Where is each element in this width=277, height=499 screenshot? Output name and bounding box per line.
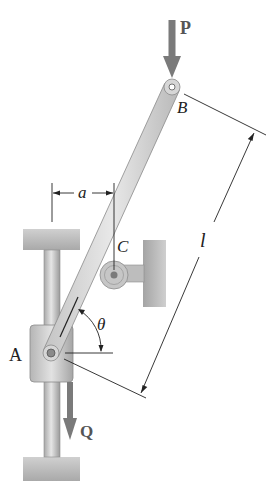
bottom-support-block <box>23 457 80 481</box>
force-q-arrow <box>63 382 77 440</box>
bar-ab <box>43 79 180 361</box>
label-theta: θ <box>97 315 105 334</box>
roller-c-axle <box>111 272 118 279</box>
force-p-arrow <box>163 20 181 78</box>
label-q: Q <box>80 422 93 441</box>
top-support-block <box>23 229 80 250</box>
label-p: P <box>180 18 191 38</box>
pin-b <box>169 84 175 90</box>
mechanism-diagram: a l θ P Q B C A <box>0 0 277 499</box>
label-a-point: A <box>9 345 22 365</box>
label-c: C <box>117 237 129 256</box>
label-l: l <box>200 229 206 251</box>
pin-a <box>47 349 55 357</box>
label-a: a <box>78 183 87 202</box>
label-b: B <box>177 98 188 117</box>
roller-wall <box>143 240 166 307</box>
